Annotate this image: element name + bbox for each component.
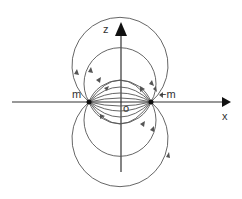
x-axis-arrow-icon [222, 97, 231, 107]
field-lines-svg [0, 0, 242, 199]
pole-m-dot [87, 100, 92, 105]
pole-m-label: m [72, 89, 81, 100]
z-axis-label: z [103, 24, 109, 35]
pole-neg-m-label: −m [160, 89, 176, 100]
field-diagram: z x o m −m [0, 0, 242, 199]
z-axis [115, 22, 127, 172]
pole-neg-m-dot [149, 100, 154, 105]
origin-label: o [123, 103, 129, 114]
z-axis-arrow-icon [115, 22, 127, 36]
x-axis-label: x [222, 111, 228, 122]
